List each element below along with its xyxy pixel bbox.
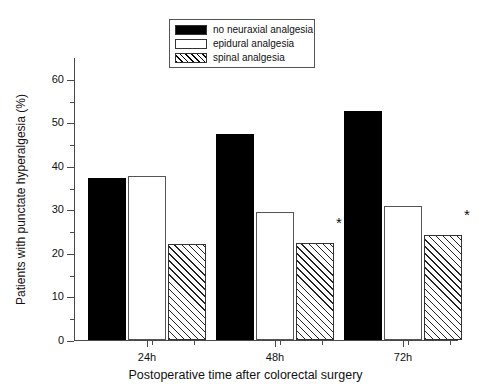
y-tick-label: 50 — [52, 117, 64, 128]
x-tick-mark-72h — [403, 341, 404, 347]
y-tick-label: 0 — [58, 335, 64, 346]
x-tick-label-72h: 72h — [394, 351, 412, 363]
bar-24h-solid-black — [88, 178, 126, 340]
y-axis-title: Patients with punctate hyperalgesia (%) — [12, 58, 30, 341]
y-tick-label: 60 — [52, 74, 64, 85]
bar-72h-open-white — [384, 206, 422, 340]
legend-label-epidural-analgesia: epidural analgesia — [213, 38, 294, 49]
x-tick-mark-24h — [147, 341, 148, 347]
y-tick-label: 30 — [52, 204, 64, 215]
bar-chart-figure: no neuraxial analgesia epidural analgesi… — [0, 0, 491, 389]
y-tick-mark — [67, 210, 74, 211]
y-tick-mark — [67, 297, 74, 298]
y-tick-minor-45 — [70, 145, 74, 146]
y-tick-minor-25 — [70, 232, 74, 233]
x-tick-minor-4 — [322, 341, 323, 345]
y-tick-mark — [67, 80, 74, 81]
significance-marker-72h: * — [464, 207, 470, 222]
y-tick-mark — [67, 341, 74, 342]
y-tick-label: 40 — [52, 161, 64, 172]
bar-24h-open-white — [128, 176, 166, 340]
legend-item-epidural-analgesia: epidural analgesia — [175, 37, 310, 50]
y-tick-minor-15 — [70, 276, 74, 277]
x-tick-label-48h: 48h — [266, 351, 284, 363]
y-tick-mark — [67, 254, 74, 255]
y-tick-mark — [67, 167, 74, 168]
bar-48h-solid-black — [216, 134, 254, 340]
y-tick-mark — [67, 123, 74, 124]
x-tick-minor-6 — [450, 341, 451, 345]
y-axis-line — [74, 58, 75, 341]
x-axis-title: Postoperative time after colorectal surg… — [0, 368, 491, 382]
x-tick-mark-48h — [275, 341, 276, 347]
y-tick-label: 20 — [52, 248, 64, 259]
bar-24h-diagonal-hatch — [168, 244, 206, 340]
y-tick-label: 10 — [52, 291, 64, 302]
y-tick-minor-5 — [70, 319, 74, 320]
x-tick-minor-2 — [194, 341, 195, 345]
legend-swatch-solid-black-icon — [175, 25, 207, 35]
bar-48h-open-white — [256, 212, 294, 340]
bar-48h-diagonal-hatch — [296, 243, 334, 340]
y-tick-minor-55 — [70, 102, 74, 103]
x-tick-label-24h: 24h — [138, 351, 156, 363]
significance-marker-48h: * — [336, 215, 342, 230]
legend-swatch-open-white-icon — [175, 39, 207, 49]
bar-72h-solid-black — [344, 111, 382, 340]
plot-area: 0102030405060 24h48h72h ** — [74, 58, 458, 341]
x-axis-line — [74, 340, 458, 341]
y-tick-minor-35 — [70, 189, 74, 190]
x-tick-minor-1 — [152, 341, 153, 345]
bar-72h-diagonal-hatch — [424, 235, 462, 340]
legend-item-no-neuraxial-analgesia: no neuraxial analgesia — [175, 23, 310, 36]
legend-label-no-neuraxial-analgesia: no neuraxial analgesia — [213, 24, 313, 35]
x-tick-minor-3 — [280, 341, 281, 345]
x-tick-minor-5 — [408, 341, 409, 345]
